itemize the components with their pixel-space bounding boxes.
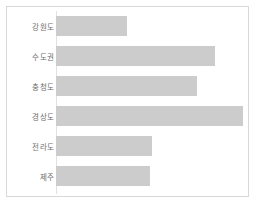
bar-row: 충청도: [7, 71, 250, 101]
chart-figure: 강원도 수도권 충청도 경상도 전라도 제주: [0, 0, 256, 209]
bar-label-jeju: 제주: [40, 171, 54, 182]
bar-label-gyeongsangdo: 경상도: [32, 111, 54, 122]
bar-label-chungcheongdo: 충청도: [32, 81, 54, 92]
bar-row: 제주: [7, 161, 250, 191]
bar-row: 수도권: [7, 41, 250, 71]
bar-sudogwon[interactable]: [56, 46, 215, 66]
bar-chungcheongdo[interactable]: [56, 76, 197, 96]
bar-row: 경상도: [7, 101, 250, 131]
bar-jeolla-do[interactable]: [56, 136, 152, 156]
bar-gangwondo[interactable]: [56, 16, 127, 36]
bar-label-gangwondo: 강원도: [32, 21, 54, 32]
bar-row: 강원도: [7, 11, 250, 41]
bar-label-jeolla-do: 전라도: [32, 141, 54, 152]
bar-gyeongsangdo[interactable]: [56, 106, 243, 126]
bars-area: 강원도 수도권 충청도 경상도 전라도 제주: [7, 7, 250, 198]
bar-label-sudogwon: 수도권: [32, 51, 54, 62]
plot-frame: 강원도 수도권 충청도 경상도 전라도 제주: [6, 6, 249, 197]
bar-row: 전라도: [7, 131, 250, 161]
bar-jeju[interactable]: [56, 166, 150, 186]
